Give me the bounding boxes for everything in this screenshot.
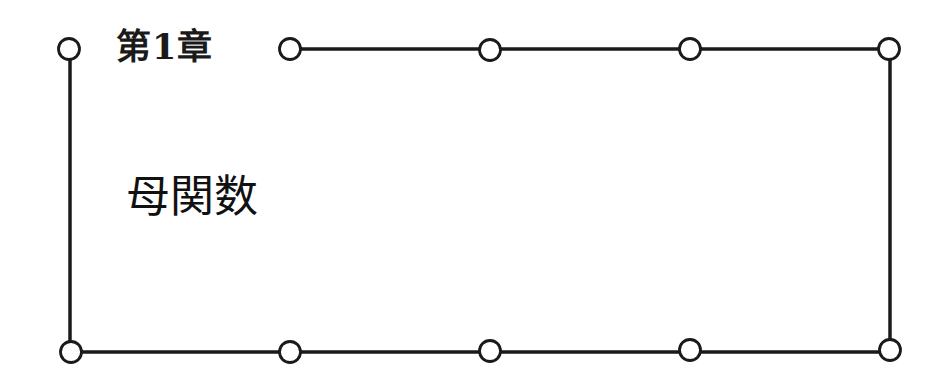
node-top-5 [879, 39, 900, 60]
node-bottom-3 [480, 341, 501, 362]
node-bottom-4 [680, 340, 701, 361]
node-bottom-1 [61, 342, 82, 363]
node-top-3 [480, 40, 501, 61]
chapter-number-heading: 第1章 [116, 22, 213, 72]
node-bottom-5 [880, 340, 901, 361]
node-top-1 [59, 39, 80, 60]
node-top-4 [680, 39, 701, 60]
node-top-2 [280, 39, 301, 60]
node-bottom-2 [280, 342, 301, 363]
chapter-title: 母関数 [126, 168, 258, 226]
